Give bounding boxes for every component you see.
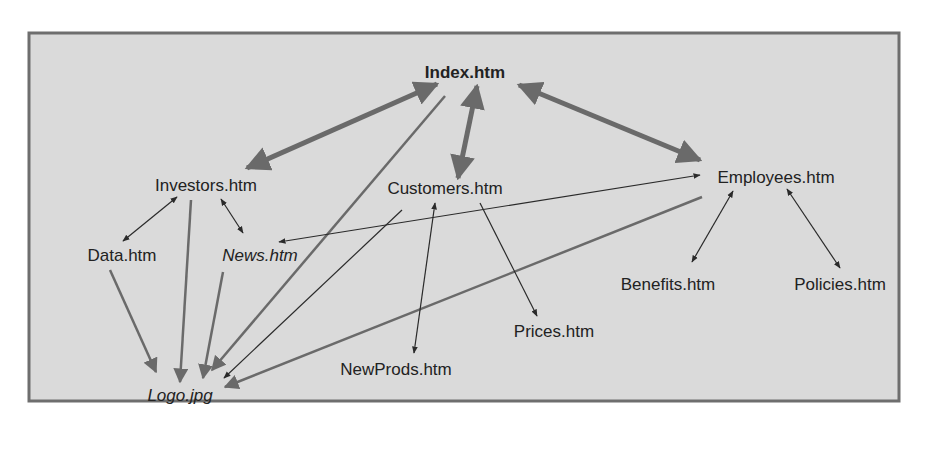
node-index: Index.htm <box>425 63 505 82</box>
node-benefits: Benefits.htm <box>621 275 716 294</box>
node-logo: Logo.jpg <box>147 386 213 405</box>
site-structure-diagram: Index.htm Investors.htm Customers.htm Em… <box>0 0 948 463</box>
node-policies: Policies.htm <box>794 275 886 294</box>
diagram-frame <box>29 33 899 401</box>
node-employees: Employees.htm <box>717 168 834 187</box>
node-prices: Prices.htm <box>514 322 594 341</box>
node-customers: Customers.htm <box>387 179 502 198</box>
node-data: Data.htm <box>88 246 157 265</box>
node-investors: Investors.htm <box>155 176 257 195</box>
node-news: News.htm <box>222 246 298 265</box>
node-newprods: NewProds.htm <box>340 360 451 379</box>
